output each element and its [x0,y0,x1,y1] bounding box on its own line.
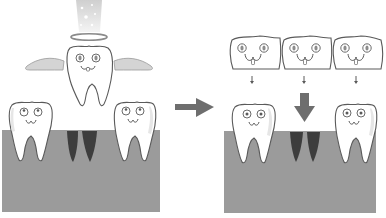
bridge-crown-right [333,36,382,69]
left-wing-icon [26,58,64,70]
small-down-arrow-icons [250,76,358,84]
big-down-arrow-icon [294,93,315,122]
halo-icon [71,34,107,40]
bridge-crowns [230,36,382,69]
angel-tooth [67,46,113,106]
right-arrow-icon [175,98,214,117]
right-wing-icon [114,58,152,70]
tooth-replacement-diagram [0,0,386,218]
before-panel [2,0,160,212]
light-beam [76,0,102,32]
bridge-crown-left [230,36,280,69]
after-panel [224,36,383,213]
diagram-canvas [0,0,386,218]
bridge-crown-middle [282,36,331,69]
